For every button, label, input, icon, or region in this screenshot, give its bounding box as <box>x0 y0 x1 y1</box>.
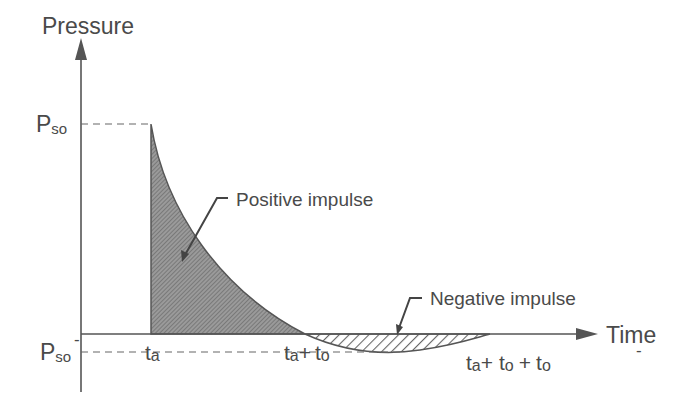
blast-pressure-diagram: Pressure Time Pso Pso - ta ta+to ta+to+t… <box>0 0 694 416</box>
y-axis-label: Pressure <box>42 13 134 39</box>
ta-plus-to-label: ta+to <box>284 341 330 364</box>
y-axis-arrow-icon <box>75 38 87 60</box>
pso-negative-label: Pso <box>40 339 71 365</box>
positive-impulse-label: Positive impulse <box>236 189 373 210</box>
positive-impulse-region <box>151 124 305 334</box>
pso-negative-sup: - <box>74 330 80 349</box>
pso-label: Pso <box>36 111 67 137</box>
to-neg-sup: - <box>636 341 642 360</box>
x-axis-label: Time <box>606 322 656 348</box>
negative-impulse-region <box>305 334 490 352</box>
negative-impulse-label: Negative impulse <box>430 288 576 309</box>
ta-label: ta <box>145 341 160 364</box>
x-axis-arrow-icon <box>576 328 598 340</box>
negative-impulse-leader <box>399 298 422 328</box>
ta-plus-to-plus-to-neg-label: ta+to+to <box>466 351 551 374</box>
